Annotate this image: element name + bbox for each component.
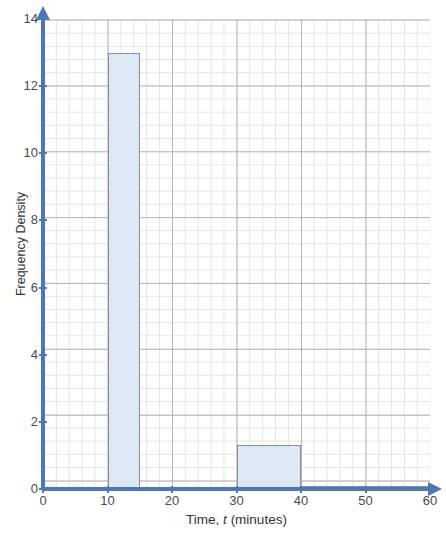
x-axis-tick-mark	[300, 486, 302, 493]
y-axis-tick-label: 10	[8, 146, 38, 159]
y-axis-tick-mark	[39, 152, 47, 154]
y-axis-tick-mark	[39, 287, 47, 289]
histogram-bar	[108, 53, 140, 489]
y-axis-line	[41, 19, 45, 490]
x-axis-tick-mark	[236, 486, 238, 493]
y-axis-tick-mark	[39, 421, 47, 423]
histogram-bar	[237, 445, 302, 489]
x-axis-tick-label: 20	[152, 494, 192, 507]
plot-area	[43, 19, 430, 489]
x-axis-tick-mark	[107, 486, 109, 493]
x-axis-title: Time, t (minutes)	[43, 512, 430, 527]
y-axis-tick-label: 4	[8, 348, 38, 361]
x-axis-tick-label: 40	[281, 494, 321, 507]
y-axis-tick-mark	[39, 18, 47, 20]
major-gridlines	[43, 19, 430, 489]
y-axis-tick-label: 2	[8, 415, 38, 428]
x-axis-tick-label: 0	[23, 494, 63, 507]
x-axis-tick-mark	[171, 486, 173, 493]
y-axis-tick-label: 14	[8, 12, 38, 25]
histogram-chart: 02468101214 0102030405060 Time, t (minut…	[0, 0, 446, 534]
x-axis-title-post: (minutes)	[227, 512, 287, 527]
x-axis-tick-label: 60	[410, 494, 446, 507]
x-axis-tick-mark	[42, 486, 44, 493]
x-axis-tick-mark	[429, 486, 431, 493]
x-axis-title-pre: Time,	[186, 512, 223, 527]
y-axis-title: Frequency Density	[14, 164, 28, 324]
x-axis-tick-label: 30	[217, 494, 257, 507]
y-axis-tick-mark	[39, 85, 47, 87]
x-axis-tick-label: 50	[346, 494, 386, 507]
x-axis-tick-label: 10	[88, 494, 128, 507]
x-axis-tick-mark	[365, 486, 367, 493]
y-axis-tick-mark	[39, 354, 47, 356]
y-axis-tick-mark	[39, 219, 47, 221]
y-axis-tick-label: 12	[8, 79, 38, 92]
